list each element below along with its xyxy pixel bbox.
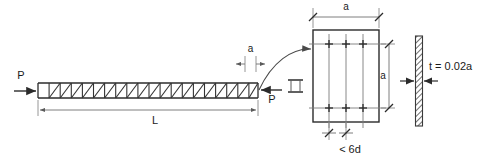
truss-beam [38,83,258,98]
cell-width-dimension-group: a [236,43,265,72]
figure-canvas: P [0,0,479,164]
engineering-diagram: P [0,0,479,164]
thin-plate-group: t = 0.02a [400,36,473,126]
load-arrow-right-group: P [261,90,282,105]
load-arrow-left-group: P [14,69,36,91]
member-section-symbol [288,80,303,92]
load-label-left: P [17,69,24,81]
cross-section-group [309,30,386,128]
spacing-note-label: < 6d [339,143,361,155]
callout-curved-arrow [259,49,311,90]
section-width-dimension-group: a [309,1,383,28]
spacing-dimension-group: < 6d [322,122,361,155]
truss-verticals [49,83,249,98]
load-label-right: P [268,93,275,105]
cell-width-label: a [248,43,254,54]
span-dimension-group: L [38,100,258,126]
thin-plate-body [416,36,423,126]
section-height-label: a [380,70,386,81]
callout-curved-arrow-group [259,49,311,90]
span-length-label: L [152,114,158,126]
plate-thickness-label: t = 0.02a [429,60,473,72]
section-width-label: a [343,1,349,12]
section-height-dimension-group: a [380,40,395,112]
